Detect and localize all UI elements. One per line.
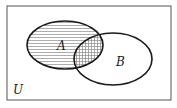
universe-label: U	[13, 83, 24, 97]
set-b-label: B	[115, 55, 125, 69]
set-a-label: A	[56, 39, 66, 53]
venn-diagram: A B U	[0, 0, 177, 108]
